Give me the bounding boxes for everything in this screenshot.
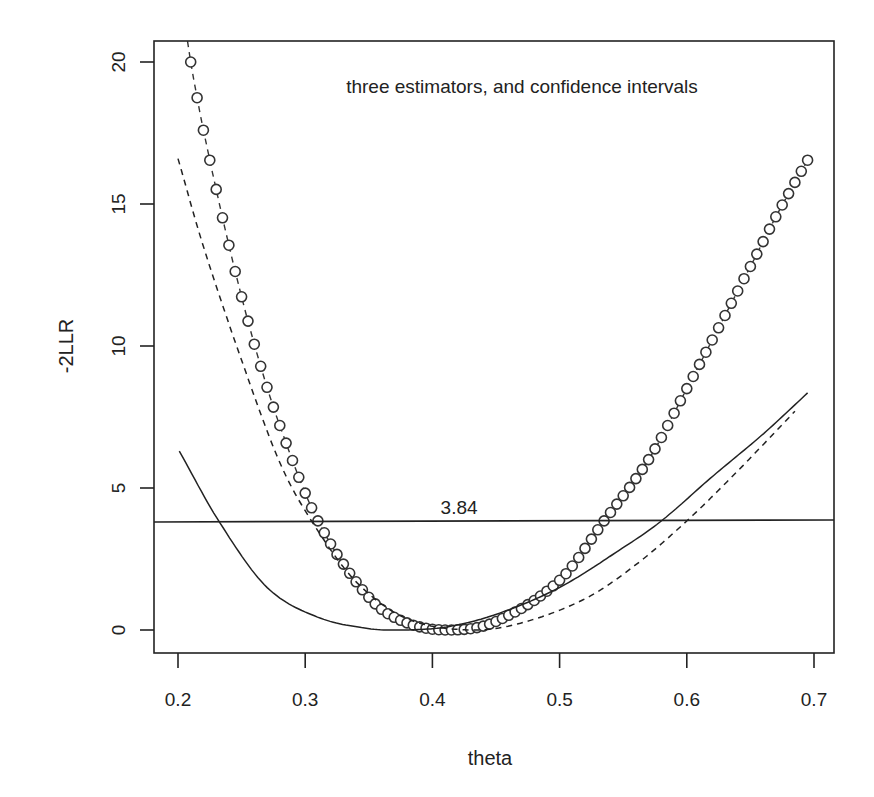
x-tick-label: 0.3 [292,689,318,710]
data-point-circle [186,57,196,67]
data-point-circle [281,438,291,448]
y-tick-label: 10 [108,335,129,356]
data-point-circle [631,474,641,484]
data-point-circle [707,335,717,345]
y-axis-label: -2LLR [55,319,77,373]
x-tick-label: 0.7 [801,689,827,710]
x-axis-label: theta [468,747,513,769]
data-point-circle [205,155,215,165]
data-point-circle [701,347,711,357]
data-series [178,19,813,635]
data-point-circle [224,240,234,250]
data-point-circle [637,464,647,474]
data-point-circle [758,237,768,247]
data-point-circle [294,472,304,482]
data-point-circle [714,323,724,333]
x-tick-label: 0.5 [546,689,572,710]
y-axis: 05101520 [108,51,154,635]
data-point-circle [211,184,221,194]
data-point-circle [777,200,787,210]
y-tick-label: 20 [108,51,129,72]
data-point-circle [688,372,698,382]
data-point-circle [669,408,679,418]
data-point-circle [256,361,266,371]
x-axis: 0.20.30.40.50.60.7 [165,653,827,710]
data-point-circle [192,93,202,103]
data-point-circle [300,488,310,498]
data-point-circle [644,455,654,465]
data-point-circle [288,456,298,466]
data-point-circle [230,267,240,277]
x-tick-label: 0.2 [165,689,191,710]
data-point-circle [739,274,749,284]
data-point-circle [656,433,666,443]
data-point-circle [733,286,743,296]
data-point-circle [237,292,247,302]
data-point-circle [752,249,762,259]
data-point-circle [198,125,208,135]
data-point-circle [803,155,813,165]
data-point-circle [593,525,603,535]
data-point-circle [580,543,590,553]
data-point-circle [726,298,736,308]
plot-annotation: three estimators, and confidence interva… [346,76,698,97]
data-point-circle [249,339,259,349]
reference-line-3-84 [154,520,834,522]
data-point-circle [586,534,596,544]
y-tick-label: 0 [108,625,129,636]
y-tick-label: 5 [108,483,129,494]
data-point-circle [682,384,692,394]
data-point-circle [745,262,755,272]
x-tick-label: 0.6 [674,689,700,710]
data-point-circle [663,421,673,431]
data-point-circle [275,421,285,431]
data-point-circle [243,316,253,326]
data-point-circle [720,311,730,321]
data-point-circle [771,212,781,222]
data-point-circle [307,503,317,513]
data-point-circle [695,359,705,369]
reference-line-label: 3.84 [441,497,478,518]
data-point-circle [765,224,775,234]
data-point-circle [784,189,794,199]
data-point-circle [796,166,806,176]
data-point-circle [268,402,278,412]
data-point-circle [574,553,584,563]
y-tick-label: 15 [108,193,129,214]
data-point-circle [218,213,228,223]
data-point-circle [675,396,685,406]
circle-series [184,19,812,635]
dashed-series-line [178,159,795,630]
data-point-circle [262,382,272,392]
data-point-circle [650,444,660,454]
solid-series-line [179,393,807,630]
data-point-circle [319,528,329,538]
x-tick-label: 0.4 [419,689,446,710]
data-point-circle [790,177,800,187]
likelihood-ratio-chart: 3.84 0.20.30.40.50.60.7 05101520 three e… [0,0,874,797]
data-point-circle [326,539,336,549]
data-point-circle [625,482,635,492]
